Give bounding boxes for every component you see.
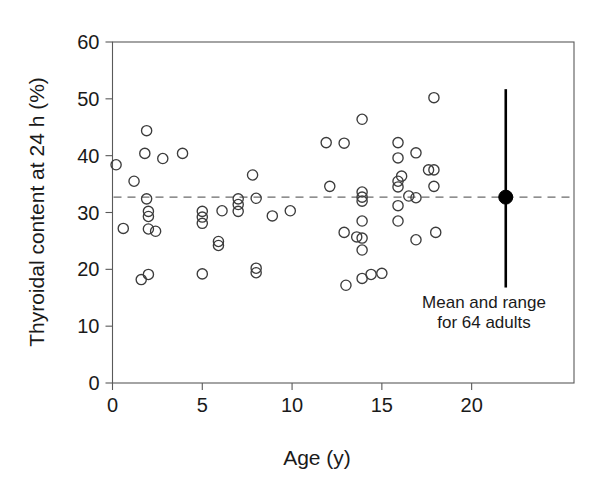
scatter-plot-figure: 0102030405060 05101520 Age (y) Thyroidal…	[0, 0, 605, 487]
x-axis-title: Age (y)	[283, 446, 351, 469]
x-tick-label: 5	[197, 394, 208, 416]
y-tick-label: 20	[77, 258, 99, 280]
x-tick-label: 15	[371, 394, 393, 416]
summary-mean-dot	[499, 190, 513, 204]
legend-label-line-1: Mean and range	[422, 293, 546, 312]
y-tick-label: 30	[77, 202, 99, 224]
y-tick-label: 0	[88, 372, 99, 394]
y-tick-label: 40	[77, 145, 99, 167]
legend-label-line-2: for 64 adults	[437, 313, 531, 332]
x-tick-label: 20	[461, 394, 483, 416]
chart-canvas: 0102030405060 05101520 Age (y) Thyroidal…	[0, 0, 605, 487]
x-tick-label: 0	[107, 394, 118, 416]
y-tick-label: 50	[77, 88, 99, 110]
x-tick-label: 10	[281, 394, 303, 416]
y-tick-label: 10	[77, 315, 99, 337]
y-axis-title: Thyroidal content at 24 h (%)	[25, 77, 48, 347]
y-tick-label: 60	[77, 31, 99, 53]
